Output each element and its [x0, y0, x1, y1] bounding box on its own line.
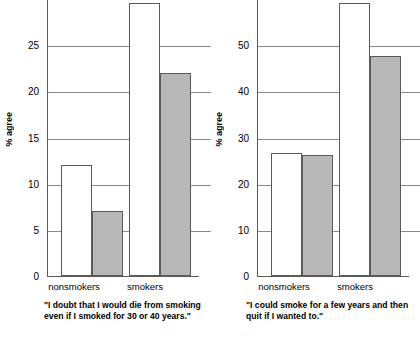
bar-smokers-adolescents [129, 3, 160, 276]
bar-smokers-adolescents [339, 3, 370, 276]
figure: % agree 25 20 15 10 5 0 adoles [0, 0, 420, 338]
y-tick-label: 0 [243, 272, 249, 282]
gridline-50 [258, 46, 410, 47]
x-tick-label-smokers: smokers [116, 281, 174, 292]
caption-left: "I doubt that I would die from smoking e… [44, 300, 212, 321]
gridline-25 [48, 46, 200, 47]
legend-left: adolescents adults [100, 0, 183, 2]
y-tick-label: 25 [28, 41, 39, 51]
y-tick-label: 10 [238, 226, 249, 236]
y-tick-label: 20 [238, 180, 249, 190]
x-tick-label-nonsmokers: nonsmokers [252, 281, 316, 292]
bar-nonsmokers-adolescents [61, 165, 92, 276]
x-tick-label-nonsmokers: nonsmokers [42, 281, 106, 292]
legend-right: adolescents adults [310, 0, 393, 2]
chart-panel-left: % agree 25 20 15 10 5 0 adoles [0, 0, 210, 338]
plot-area-right: adolescents adults [257, 0, 409, 277]
caption-right: "I could smoke for a few years and then … [246, 300, 416, 321]
y-tick-label: 40 [238, 87, 249, 97]
bar-smokers-adults [370, 56, 401, 276]
y-tick-label: 30 [238, 134, 249, 144]
y-axis-tick-labels-left: 25 20 15 10 5 0 [0, 0, 43, 338]
bar-smokers-adults [160, 73, 191, 276]
x-tick-label-smokers: smokers [326, 281, 384, 292]
bar-nonsmokers-adults [302, 155, 333, 276]
y-tick-label: 15 [28, 134, 39, 144]
bar-nonsmokers-adults [92, 211, 123, 276]
y-tick-label: 0 [33, 272, 39, 282]
y-tick-label: 50 [238, 41, 249, 51]
y-tick-label: 10 [28, 180, 39, 190]
y-axis-tick-labels-right: 50 40 30 20 10 0 [210, 0, 253, 338]
plot-area-left: adolescents adults [47, 0, 199, 277]
y-tick-label: 5 [33, 226, 39, 236]
chart-panel-right: % agree 50 40 30 20 10 0 adolescents [210, 0, 420, 338]
bar-nonsmokers-adolescents [271, 153, 302, 276]
y-tick-label: 20 [28, 87, 39, 97]
